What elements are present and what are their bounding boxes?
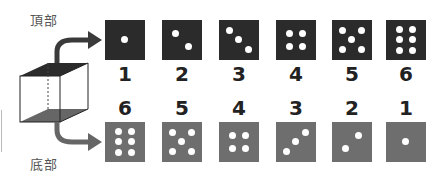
top-number: 5	[332, 64, 372, 84]
bottom-die-3	[276, 122, 316, 162]
cube-bottom-face	[20, 109, 88, 122]
top-die-1	[105, 20, 145, 60]
bottom-number: 2	[332, 98, 372, 118]
bottom-die-4	[219, 122, 259, 162]
bottom-die-2	[332, 122, 372, 162]
bottom-die-1	[386, 122, 426, 162]
bottom-die-6	[105, 122, 145, 162]
top-die-5	[332, 20, 372, 60]
bottom-number: 6	[105, 98, 145, 118]
top-die-4	[276, 20, 316, 60]
bottom-number: 4	[219, 98, 259, 118]
top-number: 4	[276, 64, 316, 84]
top-label: 頂部	[30, 10, 58, 29]
arrow-to-bottom-row	[57, 122, 90, 142]
top-number: 2	[162, 64, 202, 84]
top-number: 1	[105, 64, 145, 84]
bottom-number: 1	[386, 98, 426, 118]
bottom-label: 底部	[30, 154, 58, 173]
top-number: 3	[219, 64, 259, 84]
bottom-number: 3	[276, 98, 316, 118]
bottom-die-5	[162, 122, 202, 162]
top-die-6	[386, 20, 426, 60]
top-number: 6	[386, 64, 426, 84]
top-die-2	[162, 20, 202, 60]
arrow-to-top-row	[57, 40, 90, 63]
bottom-number: 5	[162, 98, 202, 118]
cube-top-face	[20, 63, 88, 76]
top-die-3	[219, 20, 259, 60]
